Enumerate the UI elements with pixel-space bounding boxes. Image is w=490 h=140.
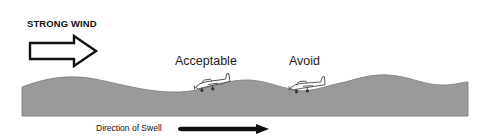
avoid-label: Avoid bbox=[289, 54, 320, 68]
strong-wind-label: STRONG WIND bbox=[27, 18, 97, 29]
airplane-avoid-icon bbox=[287, 75, 327, 95]
airplane-acceptable-icon bbox=[192, 73, 232, 93]
direction-of-swell-label: Direction of Swell bbox=[96, 123, 162, 133]
acceptable-label: Acceptable bbox=[175, 54, 237, 68]
wind-direction-arrow-icon bbox=[28, 33, 100, 69]
swell-direction-arrow-icon bbox=[176, 123, 270, 135]
